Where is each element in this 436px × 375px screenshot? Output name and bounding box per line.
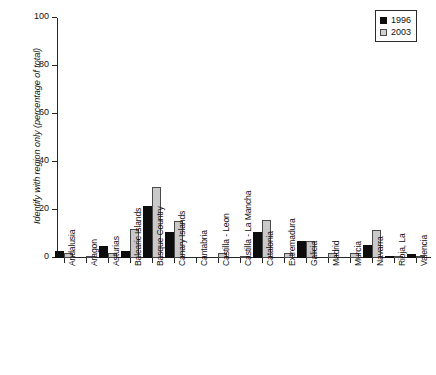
bar-group (77, 18, 96, 258)
legend-item-1996: 1996 (380, 14, 411, 26)
legend-swatch-1996-icon (380, 17, 387, 24)
x-axis-tick (262, 258, 263, 263)
bar-1996 (297, 241, 306, 258)
x-axis-tick (240, 258, 241, 263)
x-axis-label: Catalonia (265, 231, 275, 266)
bar-1996 (363, 245, 372, 258)
bar-1996 (385, 256, 394, 258)
bar-1996 (143, 206, 152, 258)
x-axis-label: Extremadura (287, 218, 297, 266)
y-axis-tick-label: 40 (39, 155, 49, 165)
x-axis-label: Balearic Islands (133, 208, 143, 266)
chart-legend: 1996 2003 (375, 10, 417, 42)
bar-group (99, 18, 118, 258)
legend-swatch-2003-icon (380, 29, 387, 36)
x-axis-tick (108, 258, 109, 263)
x-axis-label: Basque Country (155, 206, 165, 266)
x-axis-label: Castilla - La Mancha (243, 191, 253, 266)
bar-group (187, 18, 206, 258)
x-axis-label: Navarra (375, 236, 385, 266)
x-axis-label: Castilla - Leon (221, 213, 231, 266)
x-axis-label: Aragon (89, 239, 99, 266)
x-axis-label: Asturias (111, 236, 121, 266)
bar-1996 (407, 254, 416, 258)
y-axis-title: Identify with region only (percentage of… (32, 16, 42, 256)
bar-group (385, 18, 404, 258)
bar-group (55, 18, 74, 258)
x-axis-tick (328, 258, 329, 263)
x-axis-tick (284, 258, 285, 263)
x-axis-label: Murcia (353, 241, 363, 266)
x-axis-tick (152, 258, 153, 263)
x-axis-tick (394, 258, 395, 263)
bar-group (407, 18, 426, 258)
x-axis-tick (174, 258, 175, 263)
x-axis-tick (350, 258, 351, 263)
x-axis-tick (218, 258, 219, 263)
bar-1996 (55, 251, 64, 258)
legend-label-1996: 1996 (391, 15, 411, 25)
y-axis-tick-label: 80 (39, 59, 49, 69)
y-axis-tick-label: 0 (44, 251, 49, 261)
y-axis-tick-label: 60 (39, 107, 49, 117)
bar-1996 (253, 232, 262, 258)
x-axis-label: Andalusia (67, 230, 77, 266)
x-axis-tick (306, 258, 307, 263)
x-axis-tick (64, 258, 65, 263)
legend-label-2003: 2003 (391, 27, 411, 37)
x-axis-tick (86, 258, 87, 263)
y-axis-tick-label: 20 (39, 203, 49, 213)
bar-1996 (165, 232, 174, 258)
bar-chart-figure: Identify with region only (percentage of… (0, 0, 436, 375)
x-axis-label: Rioja, La (397, 233, 407, 266)
bar-group (319, 18, 338, 258)
bar-1996 (99, 246, 108, 258)
x-axis-tick (196, 258, 197, 263)
x-axis-tick (416, 258, 417, 263)
bar-group (363, 18, 382, 258)
x-axis-tick (372, 258, 373, 263)
x-axis-label: Madrid (331, 241, 341, 266)
bar-group (253, 18, 272, 258)
x-axis-label: Canary Islands (177, 211, 187, 266)
x-axis-tick (130, 258, 131, 263)
legend-item-2003: 2003 (380, 26, 411, 38)
bar-1996 (121, 251, 130, 258)
x-axis-label: Valencia (419, 235, 429, 266)
x-axis-label: Galicia (309, 241, 319, 266)
y-axis-tick-label: 100 (34, 11, 49, 21)
x-axis-label: Cantabria (199, 230, 209, 266)
bar-group (297, 18, 316, 258)
bar-group (341, 18, 360, 258)
